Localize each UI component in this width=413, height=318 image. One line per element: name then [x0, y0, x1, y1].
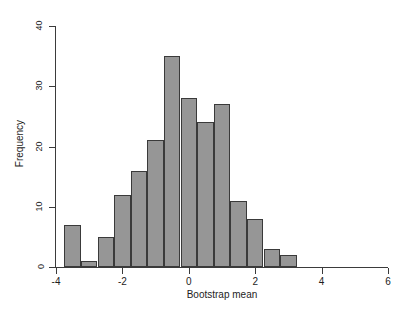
- y-tick-label-text: 20: [34, 141, 43, 151]
- x-tick--2: [122, 268, 123, 274]
- y-tick-label-0: 0: [0, 262, 44, 271]
- histogram-bar: [264, 249, 281, 267]
- x-axis-title: Bootstrap mean: [56, 289, 388, 300]
- histogram-bar: [64, 225, 81, 267]
- x-tick-4: [322, 268, 323, 274]
- histogram-bar: [197, 122, 214, 267]
- y-tick-label-10: 10: [0, 202, 44, 211]
- y-tick-label-20: 20: [0, 142, 44, 151]
- x-tick-6: [388, 268, 389, 274]
- x-tick--4: [56, 268, 57, 274]
- y-tick-label-text: 30: [34, 81, 43, 91]
- histogram-bar: [98, 237, 115, 267]
- y-tick-20: [49, 147, 55, 148]
- y-tick-label-text: 40: [34, 20, 43, 30]
- x-axis-line: [55, 267, 388, 268]
- histogram-bar: [81, 261, 98, 267]
- x-tick-label-4: 4: [302, 276, 342, 288]
- y-tick-label-text: 0: [37, 264, 46, 269]
- x-tick-label--2: -2: [102, 276, 142, 288]
- y-tick-label-40: 40: [0, 21, 44, 30]
- histogram-bar: [131, 171, 148, 267]
- y-tick-label-30: 30: [0, 81, 44, 90]
- histogram-bar: [114, 195, 131, 267]
- y-tick-label-text: 10: [34, 201, 43, 211]
- x-tick-label-6: 6: [368, 276, 408, 288]
- y-tick-30: [49, 86, 55, 87]
- histogram-bar: [181, 98, 198, 267]
- x-tick-0: [189, 268, 190, 274]
- histogram-bar: [147, 140, 164, 267]
- plot-area: [56, 26, 388, 267]
- y-tick-40: [49, 26, 55, 27]
- histogram-bar: [214, 104, 231, 267]
- x-tick-label--4: -4: [36, 276, 76, 288]
- histogram-bar: [247, 219, 264, 267]
- histogram-bar: [230, 201, 247, 267]
- y-tick-0: [49, 267, 55, 268]
- histogram-figure: Frequency 010203040 -4-20246 Bootstrap m…: [0, 0, 413, 318]
- x-tick-2: [255, 268, 256, 274]
- x-tick-label-0: 0: [169, 276, 209, 288]
- histogram-bar: [280, 255, 297, 267]
- histogram-bar: [164, 56, 181, 267]
- y-tick-10: [49, 207, 55, 208]
- x-tick-label-2: 2: [235, 276, 275, 288]
